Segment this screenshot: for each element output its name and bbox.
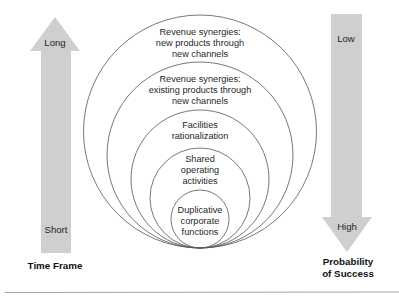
circle-5-label: Duplicative corporate functions (178, 205, 223, 237)
time-frame-long-label: Long (44, 37, 65, 48)
time-frame-title: Time Frame (28, 260, 83, 271)
time-frame-arrow: Long Short Time Frame (28, 17, 83, 271)
svg-text:rationalization: rationalization (172, 131, 229, 141)
probability-high-label: High (337, 221, 357, 232)
svg-text:activities: activities (182, 176, 218, 186)
svg-text:existing products through: existing products through (149, 85, 252, 95)
probability-low-label: Low (337, 33, 355, 44)
down-arrow-icon (322, 14, 372, 252)
svg-text:operating: operating (181, 165, 219, 175)
up-arrow-icon (30, 17, 80, 253)
svg-text:Duplicative: Duplicative (178, 205, 223, 215)
svg-text:Facilities: Facilities (182, 120, 218, 130)
svg-text:new channels: new channels (172, 49, 229, 59)
probability-title-line1: Probability (323, 256, 374, 267)
circle-4-label: Shared operating activities (181, 154, 219, 186)
svg-text:Revenue synergies:: Revenue synergies: (159, 74, 240, 84)
time-frame-short-label: Short (45, 224, 68, 235)
circle-3-label: Facilities rationalization (172, 120, 229, 141)
svg-text:new channels: new channels (172, 96, 229, 106)
svg-text:corporate: corporate (181, 216, 220, 226)
svg-text:functions: functions (182, 227, 219, 237)
probability-title-line2: of Success (322, 268, 374, 279)
circle-1-label: Revenue synergies: new products through … (156, 27, 244, 59)
svg-text:Revenue synergies:: Revenue synergies: (159, 27, 240, 37)
bottom-rule (5, 292, 399, 293)
svg-text:Shared: Shared (185, 154, 215, 164)
nested-circles-diagram: Long Short Time Frame Low High Probabili… (0, 0, 399, 303)
probability-arrow: Low High Probability of Success (322, 14, 374, 279)
circle-2-label: Revenue synergies: existing products thr… (149, 74, 252, 106)
svg-text:new products through: new products through (156, 38, 244, 48)
